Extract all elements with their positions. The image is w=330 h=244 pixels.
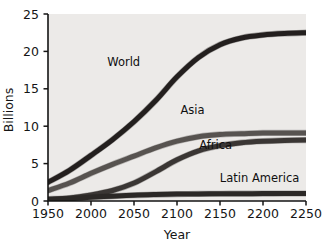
y-axis-tick-label: 20: [23, 44, 39, 59]
series-annotation-asia: Asia: [180, 103, 204, 117]
population-projection-chart: 05101520251950200020502100215022002250 W…: [0, 0, 330, 244]
x-axis-title: Year: [163, 227, 191, 242]
x-axis-tick-label: 2050: [118, 206, 150, 221]
x-axis-tick-label: 2100: [161, 206, 193, 221]
series-annotation-africa: Africa: [199, 138, 232, 152]
x-axis-tick-label: 2000: [75, 206, 107, 221]
y-axis-tick-label: 15: [23, 81, 39, 96]
y-axis-title: Billions: [1, 88, 16, 133]
x-axis-tick-label: 2250: [290, 206, 322, 221]
y-axis-tick-label: 25: [23, 7, 39, 22]
x-axis-tick-label: 2150: [204, 206, 236, 221]
x-axis-tick-label: 2200: [247, 206, 279, 221]
x-axis-tick-label: 1950: [32, 206, 64, 221]
chart-figure: 05101520251950200020502100215022002250 W…: [0, 0, 330, 244]
series-annotation-world: World: [107, 55, 140, 69]
series-annotation-latin-america: Latin America: [220, 171, 300, 185]
y-axis-tick-label: 5: [31, 156, 39, 171]
y-axis-tick-label: 10: [23, 119, 39, 134]
